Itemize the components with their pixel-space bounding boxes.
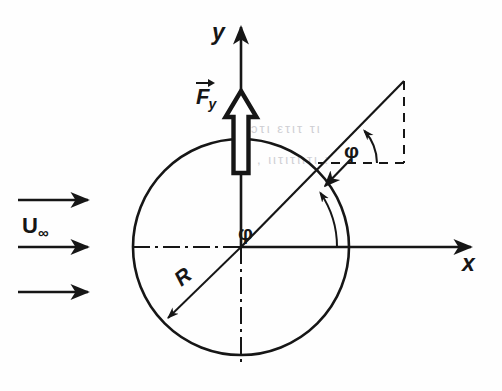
force-symbol: F bbox=[196, 86, 209, 108]
force-subscript: y bbox=[208, 96, 216, 112]
vector-overbar-arrow-icon bbox=[196, 78, 216, 87]
y-axis-label: y bbox=[212, 21, 225, 44]
center-angle-arc bbox=[321, 193, 338, 247]
force-label: Fy bbox=[196, 86, 216, 111]
freestream-subscript: ∞ bbox=[38, 224, 49, 241]
center-angle-label: φ bbox=[238, 222, 253, 243]
outer-angle-label: φ bbox=[344, 140, 359, 161]
freestream-symbol: U bbox=[22, 213, 38, 238]
outer-angle-arc bbox=[365, 131, 378, 163]
freestream-label: U∞ bbox=[22, 215, 49, 240]
cylinder-flow-diagram bbox=[0, 0, 502, 391]
x-axis-label: x bbox=[462, 252, 475, 275]
force-arrow-Fy bbox=[226, 91, 257, 173]
